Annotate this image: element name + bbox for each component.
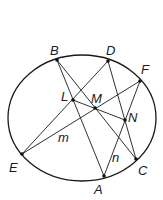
point-M <box>93 106 97 110</box>
point-L <box>71 98 75 102</box>
segments <box>22 60 140 176</box>
point-label-M: M <box>91 91 102 106</box>
line-label-m: m <box>58 130 69 145</box>
point-label-L: L <box>61 89 68 104</box>
point-label-N: N <box>128 110 138 125</box>
point-A <box>102 174 106 178</box>
point-D <box>106 59 110 63</box>
point-label-E: E <box>9 160 18 175</box>
line-label-n: n <box>112 150 119 165</box>
point-label-A: A <box>93 182 103 197</box>
point-B <box>55 58 59 62</box>
point-label-F: F <box>141 62 150 77</box>
point-N <box>123 118 127 122</box>
segment-FE <box>22 81 140 154</box>
labels: BDFLMNECAmn <box>9 43 150 197</box>
point-C <box>134 157 138 161</box>
point-E <box>20 152 24 156</box>
point-label-D: D <box>106 43 115 58</box>
point-label-B: B <box>50 43 59 58</box>
pascal-theorem-diagram: BDFLMNECAmn <box>0 0 163 200</box>
point-label-C: C <box>138 163 148 178</box>
point-F <box>138 79 142 83</box>
